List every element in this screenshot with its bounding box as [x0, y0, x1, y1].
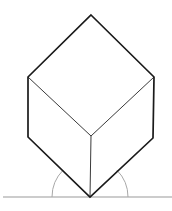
inner-edge-vertical [90, 136, 91, 197]
inner-edge-upper-left [28, 77, 91, 136]
angle-arc-left [52, 170, 63, 197]
cube-outline [28, 15, 154, 197]
inner-edge-upper-right [91, 77, 154, 136]
angle-arc-right [117, 170, 128, 197]
cube-diagram [0, 0, 172, 211]
